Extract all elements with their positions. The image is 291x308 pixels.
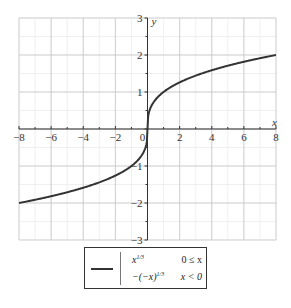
svg-text:2: 2 [137, 49, 143, 61]
legend-cond-negative: x < 0 [181, 271, 202, 282]
svg-text:4: 4 [209, 131, 215, 143]
svg-text:−8: −8 [13, 131, 25, 143]
legend: x1/3 0 ≤ x −(−x)1/3 x < 0 [84, 247, 207, 289]
legend-expr-negative: −(−x)1/3 [132, 271, 164, 282]
svg-text:6: 6 [241, 131, 247, 143]
svg-text:0: 0 [140, 131, 146, 143]
svg-text:1: 1 [137, 86, 143, 98]
legend-brace [120, 252, 121, 285]
svg-text:−2: −2 [110, 131, 122, 143]
svg-text:−2: −2 [131, 197, 143, 209]
svg-text:−4: −4 [77, 131, 89, 143]
x-axis-label: x [271, 116, 277, 128]
svg-text:2: 2 [177, 131, 183, 143]
legend-line-swatch [91, 268, 113, 270]
svg-text:3: 3 [137, 12, 143, 24]
y-axis-label: y [151, 15, 157, 27]
svg-text:−6: −6 [45, 131, 57, 143]
svg-text:−3: −3 [131, 234, 143, 246]
svg-text:8: 8 [273, 131, 279, 143]
legend-expr-positive: x1/3 [132, 254, 144, 265]
legend-cond-positive: 0 ≤ x [182, 254, 203, 265]
